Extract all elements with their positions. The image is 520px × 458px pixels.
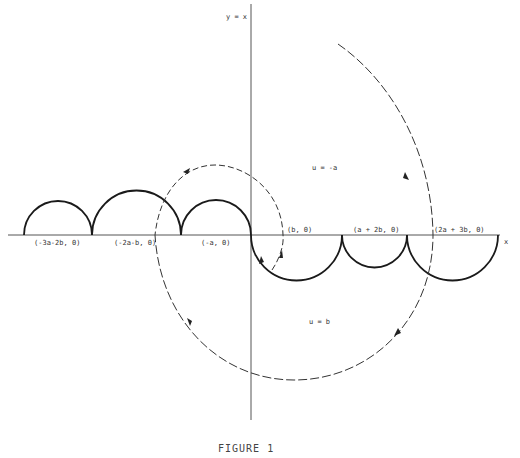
arrow-icon [187, 318, 192, 326]
dashed-inner-loop [155, 165, 283, 270]
point-label: (-a, 0) [201, 239, 231, 247]
figure-caption: FIGURE 1 [218, 443, 274, 454]
lower-semicircle-2 [342, 235, 407, 268]
arrow-icon [183, 168, 190, 174]
arrow-icon [394, 328, 401, 336]
y-axis-label: y = x [226, 13, 247, 21]
dashed-outer-spiral [155, 44, 433, 380]
region-label-lower: u = b [309, 318, 330, 326]
upper-semicircle-3 [181, 200, 251, 235]
point-label: (-2a-b, 0) [114, 239, 156, 247]
arrow-icon [403, 172, 409, 180]
lower-semicircle-1 [251, 235, 342, 281]
arrow-icon [259, 256, 264, 264]
upper-semicircle-1 [24, 201, 92, 235]
upper-semicircle-2 [92, 191, 181, 236]
x-axis-label: x [504, 238, 508, 246]
region-label-upper: u = -a [312, 164, 337, 172]
lower-semicircle-3 [407, 235, 498, 281]
point-label: (b, 0) [287, 226, 312, 234]
point-label: (-3a-2b, 0) [34, 239, 80, 247]
point-label: (2a + 3b, 0) [434, 226, 485, 234]
point-label: (a + 2b, 0) [353, 226, 399, 234]
